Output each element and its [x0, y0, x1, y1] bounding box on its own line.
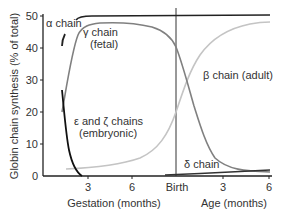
x-axis-title-age: Age (months)	[201, 197, 267, 209]
y-axis: 50 40 30 20 10 0 Globin chain synthesis …	[8, 10, 43, 182]
y-tick-0: 0	[32, 170, 38, 182]
globin-synthesis-chart: 50 40 30 20 10 0 Globin chain synthesis …	[0, 0, 283, 215]
x-axis-title-gestation: Gestation (months)	[67, 197, 161, 209]
x-axis: 3 6 Birth 3 6 Gestation (months) Age (mo…	[43, 176, 272, 209]
annotation-alpha-chain: α chain	[46, 17, 82, 29]
x-tick-age-3: 3	[220, 181, 226, 193]
annotation-delta-chain: δ chain	[184, 158, 219, 170]
annotation-gamma-fetal: (fetal)	[90, 38, 118, 50]
x-tick-age-6: 6	[266, 181, 272, 193]
y-tick-40: 40	[26, 42, 38, 54]
x-tick-gestation-6: 6	[129, 181, 135, 193]
y-tick-50: 50	[26, 10, 38, 22]
y-tick-10: 10	[26, 138, 38, 150]
y-tick-30: 30	[26, 74, 38, 86]
y-axis-title: Globin chain synthesis (% of total)	[8, 13, 20, 179]
y-tick-20: 20	[26, 106, 38, 118]
annotation-embryonic: (embryonic)	[79, 127, 137, 139]
alpha-chain-early-segment	[62, 34, 65, 46]
x-tick-gestation-3: 3	[85, 181, 91, 193]
delta-chain-curve	[165, 170, 270, 175]
x-tick-birth: Birth	[166, 181, 189, 193]
annotation-gamma-chain: γ chain	[83, 26, 118, 38]
annotation-epsilon-zeta: ε and ζ chains	[74, 115, 144, 127]
annotation-beta-chain: β chain (adult)	[203, 69, 273, 81]
alpha-chain-curve	[76, 15, 270, 20]
